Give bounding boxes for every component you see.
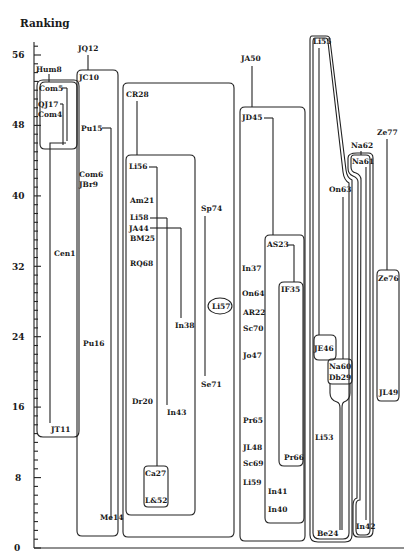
label-pu15: Pu15 <box>81 124 103 133</box>
label-l52: L&52 <box>145 496 167 505</box>
label-if35: IF35 <box>281 285 300 294</box>
label-on64: On64 <box>242 289 264 298</box>
label-ja44: JA44 <box>128 224 149 233</box>
label-na62: Na62 <box>351 141 373 150</box>
y-tick-32: 32 <box>12 262 25 272</box>
label-na60: Na60 <box>329 362 351 371</box>
label-am21: Am21 <box>129 196 154 205</box>
label-ze76: Ze76 <box>378 274 399 283</box>
group-ja50: JA50 JD45 In37 On64 AR22 Sc70 Jo47 Pr65 … <box>240 54 305 541</box>
label-jl49: JL49 <box>378 388 398 397</box>
group-hum8: Hum8 Com5 QJ17 Com4 Cen1 JT11 <box>36 65 79 437</box>
label-dr20: Dr20 <box>132 397 153 406</box>
label-na61: Na61 <box>352 157 374 166</box>
label-be24: Be24 <box>317 529 339 538</box>
y-tick-8: 8 <box>15 473 21 483</box>
label-jbr9: JBr9 <box>78 180 98 189</box>
label-li55: Li55 <box>313 37 332 46</box>
label-li56: Li56 <box>129 162 148 171</box>
label-in40: In40 <box>268 505 287 514</box>
label-ca27: Ca27 <box>145 469 166 478</box>
label-db29: Db29 <box>329 373 351 382</box>
label-jt11: JT11 <box>50 425 71 434</box>
label-je46: JE46 <box>313 344 334 353</box>
label-li58: Li58 <box>130 213 149 222</box>
label-ze77: Ze77 <box>377 128 398 137</box>
chart-title: Ranking <box>20 17 70 29</box>
label-pr65: Pr65 <box>243 416 263 425</box>
label-se71: Se71 <box>201 380 222 389</box>
y-tick-16: 16 <box>12 402 25 412</box>
label-pr66: Pr66 <box>284 453 304 462</box>
y-tick-40: 40 <box>12 191 25 201</box>
label-me14: Me14 <box>100 513 124 522</box>
label-li57: Li57 <box>212 302 231 311</box>
label-li59: Li59 <box>243 478 262 487</box>
label-cr28: CR28 <box>126 90 149 99</box>
y-tick-24: 24 <box>12 332 25 342</box>
y-axis: 0 8 16 24 32 40 48 56 <box>12 42 404 553</box>
label-sc70: Sc70 <box>243 324 263 333</box>
label-in42: In42 <box>356 522 375 531</box>
label-com4: Com4 <box>38 110 62 119</box>
label-com6: Com6 <box>79 170 103 179</box>
y-tick-48: 48 <box>12 120 25 130</box>
label-sc69: Sc69 <box>243 459 263 468</box>
group-li55: Li55 Li53 Be24 JE46 Na60 Db29 On63 <box>310 36 352 542</box>
label-jq12: JQ12 <box>77 44 99 53</box>
y-tick-56: 56 <box>12 50 25 60</box>
label-jo47: Jo47 <box>242 351 262 360</box>
label-in38: In38 <box>175 321 194 330</box>
label-in41: In41 <box>268 487 287 496</box>
label-sp74: Sp74 <box>201 204 222 213</box>
label-hum8: Hum8 <box>36 65 62 74</box>
label-ar22: AR22 <box>242 308 266 317</box>
label-in43: In43 <box>167 408 186 417</box>
label-jl48: JL48 <box>242 443 262 452</box>
label-cen1: Cen1 <box>54 249 75 258</box>
group-jq12: JQ12 JC10 Pu15 Com6 JBr9 Pu16 Me14 <box>77 44 124 536</box>
label-li53: Li53 <box>315 433 334 442</box>
label-qj17: QJ17 <box>38 100 59 109</box>
label-rq68: RQ68 <box>130 259 153 268</box>
label-in37: In37 <box>242 264 261 273</box>
ranking-diagram: Ranking 0 8 16 24 32 40 48 56 Hum8 Com5 … <box>0 0 409 560</box>
label-on63: On63 <box>329 185 351 194</box>
y-tick-0: 0 <box>14 543 20 553</box>
label-com5: Com5 <box>39 84 63 93</box>
label-bm25: BM25 <box>130 234 155 243</box>
group-cr28: CR28 Sp74 Se71 Li57 Li56 Am21 Li58 JA44 … <box>123 83 234 537</box>
label-jd45: JD45 <box>241 113 263 122</box>
label-ja50: JA50 <box>240 54 261 63</box>
group-ze77: Ze77 Ze76 JL49 <box>377 128 399 401</box>
label-as23: AS23 <box>266 240 289 249</box>
label-jc10: JC10 <box>78 73 99 82</box>
label-pu16: Pu16 <box>83 339 105 348</box>
